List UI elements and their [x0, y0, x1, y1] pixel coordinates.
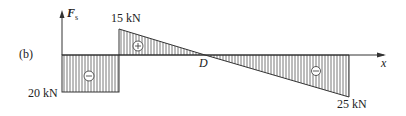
left-value-label: 20 kN	[28, 86, 58, 101]
shear-force-diagram: (b) Fs 15 kN 20 kN D x 25 kN	[0, 0, 406, 116]
top-value-label: 15 kN	[111, 11, 141, 26]
positive-region	[119, 29, 205, 55]
x-axis-label: x	[381, 56, 386, 71]
figure-label: (b)	[19, 47, 33, 62]
y-axis-arrow-icon	[60, 10, 65, 18]
y-axis-label: Fs	[67, 6, 78, 22]
point-d-label: D	[199, 56, 208, 71]
right-value-label: 25 kN	[337, 97, 367, 112]
negative-region-2	[205, 55, 349, 97]
